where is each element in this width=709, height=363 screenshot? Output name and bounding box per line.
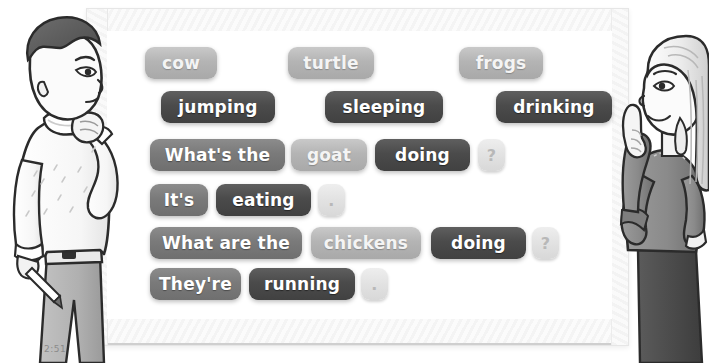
word-tile-doing[interactable]: doing <box>375 139 470 171</box>
word-tile-eating[interactable]: eating <box>216 184 311 216</box>
word-tile-[interactable]: ? <box>532 227 559 259</box>
word-tile-doing[interactable]: doing <box>431 227 526 259</box>
word-tile-cow[interactable]: cow <box>145 47 217 79</box>
pointing-girl-illustration <box>592 0 709 363</box>
word-tile-what-s-the[interactable]: What's the <box>150 139 285 171</box>
word-tile-sleeping[interactable]: sleeping <box>325 91 443 123</box>
word-tile-running[interactable]: running <box>249 268 355 300</box>
word-tile-turtle[interactable]: turtle <box>288 47 374 79</box>
whiteboard-frame-bottom <box>87 318 628 345</box>
whiteboard-frame-top <box>87 9 628 32</box>
word-tile-what-are-the[interactable]: What are the <box>150 227 302 259</box>
word-tile-they-re[interactable]: They're <box>150 268 241 300</box>
video-timestamp: 2:51 <box>44 344 66 354</box>
word-tile-[interactable]: ? <box>478 139 505 171</box>
word-tile-chickens[interactable]: chickens <box>311 227 421 259</box>
word-tile-it-s[interactable]: It's <box>150 184 208 216</box>
word-tile-[interactable]: . <box>318 184 345 216</box>
lesson-screenshot: cowturtlefrogsjumpingsleepingdrinkingWha… <box>0 0 709 363</box>
word-tile-frogs[interactable]: frogs <box>459 47 543 79</box>
word-tile-[interactable]: . <box>361 268 388 300</box>
word-tile-jumping[interactable]: jumping <box>161 91 275 123</box>
thinking-boy-illustration <box>0 0 135 363</box>
word-tile-goat[interactable]: goat <box>291 139 367 171</box>
